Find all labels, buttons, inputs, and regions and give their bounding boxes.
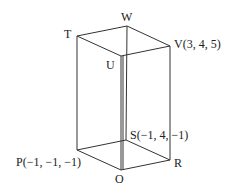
label-s: S(−1, 4, −1) (130, 128, 188, 142)
edge-w-s (126, 26, 127, 140)
label-u: U (106, 58, 115, 72)
edge-v-u (121, 46, 170, 56)
cuboid-diagram: W T V(3, 4, 5) U S(−1, 4, −1) P(−1, −1, … (0, 0, 232, 183)
edge-w-v (127, 26, 170, 46)
edge-t-w (77, 26, 127, 36)
edge-p-s (77, 140, 126, 150)
edge-s-r (126, 140, 170, 160)
label-q: Q (115, 172, 124, 183)
label-v: V(3, 4, 5) (174, 37, 221, 51)
edge-r-q (121, 160, 170, 170)
edge-u-t (77, 36, 121, 56)
label-p: P(−1, −1, −1) (16, 155, 81, 169)
label-w: W (121, 10, 133, 24)
label-t: T (64, 27, 72, 41)
edge-q-p (77, 150, 121, 170)
label-r: R (174, 156, 182, 170)
